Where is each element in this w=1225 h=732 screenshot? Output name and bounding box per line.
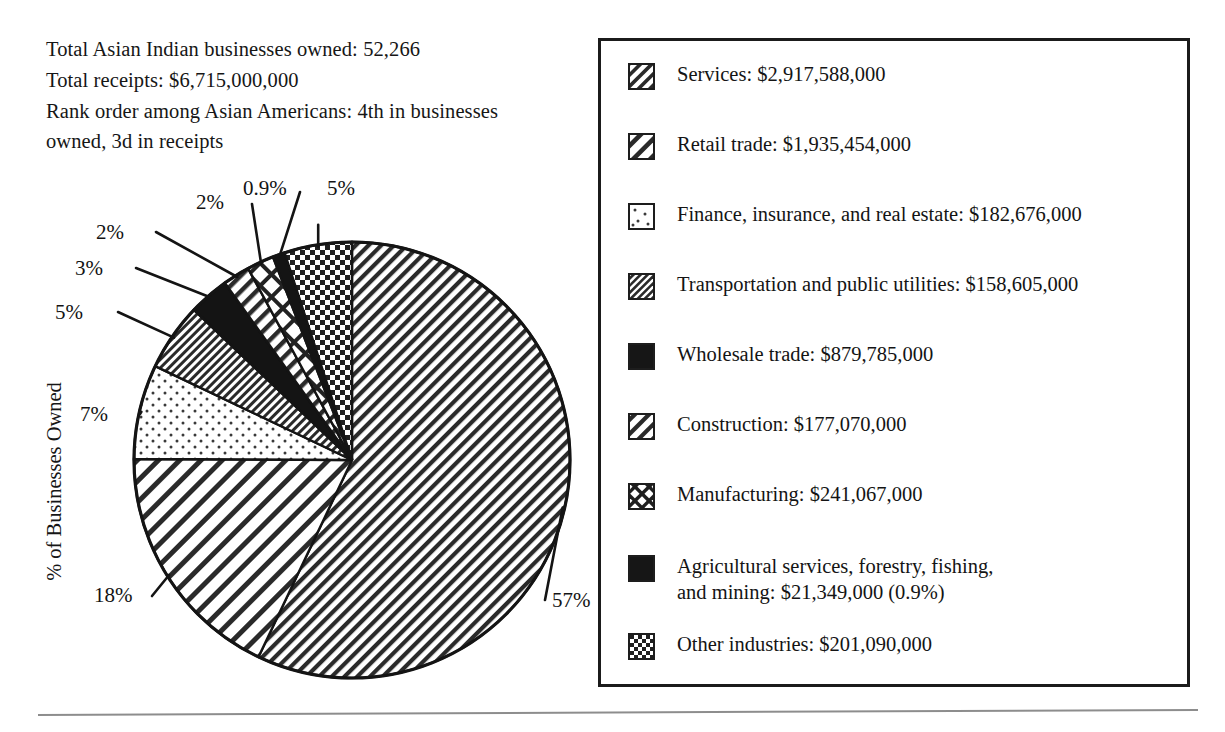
- pie-leader-line: [152, 575, 169, 596]
- pie-percent-label: 57%: [552, 588, 591, 613]
- pie-percent-label: 18%: [94, 583, 133, 608]
- legend-swatch-solid-black-icon: [628, 343, 655, 370]
- pie-leader-line: [156, 232, 237, 277]
- legend-item[interactable]: Other industries: $201,090,000: [628, 631, 932, 660]
- pie-leader-line: [136, 268, 210, 297]
- legend-swatch-diagonal-hatch-medium-icon: [628, 413, 655, 440]
- legend-label: Finance, insurance, and real estate: $18…: [677, 201, 1082, 227]
- pie-percent-label: 7%: [80, 402, 108, 427]
- pie-percent-label: 5%: [327, 176, 355, 201]
- legend-item[interactable]: Agricultural services, forestry, fishing…: [628, 553, 993, 605]
- legend-box: Services: $2,917,588,000Retail trade: $1…: [598, 38, 1190, 687]
- legend-item[interactable]: Wholesale trade: $879,785,000: [628, 341, 933, 370]
- legend-swatch-checkerboard-icon: [628, 633, 655, 660]
- legend-label: Construction: $177,070,000: [677, 411, 906, 437]
- legend-item[interactable]: Construction: $177,070,000: [628, 411, 906, 440]
- legend-item[interactable]: Finance, insurance, and real estate: $18…: [628, 201, 1082, 230]
- legend-swatch-dots-sparse-icon: [628, 203, 655, 230]
- pie-percent-label: 2%: [96, 220, 124, 245]
- legend-label: Services: $2,917,588,000: [677, 61, 885, 87]
- pie-leader-line: [279, 192, 300, 257]
- legend-swatch-diagonal-hatch-wide-icon: [628, 133, 655, 160]
- pie-leader-line: [252, 204, 261, 264]
- legend-label: Retail trade: $1,935,454,000: [677, 131, 911, 157]
- legend-swatch-diagonal-hatch-fine-icon: [628, 63, 655, 90]
- legend-label: Agricultural services, forestry, fishing…: [677, 553, 993, 605]
- legend-item[interactable]: Retail trade: $1,935,454,000: [628, 131, 911, 160]
- pie-percent-label: 0.9%: [243, 176, 287, 201]
- pie-leader-line: [118, 312, 174, 338]
- pie-slice-group: [134, 242, 570, 678]
- legend-label: Wholesale trade: $879,785,000: [677, 341, 933, 367]
- pie-chart-svg: [0, 0, 620, 732]
- figure-root: Total Asian Indian businesses owned: 52,…: [0, 0, 1225, 732]
- legend-swatch-solid-black-icon: [628, 555, 655, 582]
- pie-percent-label: 2%: [196, 190, 224, 215]
- pie-percent-label: 3%: [75, 256, 103, 281]
- legend-swatch-crosshatch-icon: [628, 483, 655, 510]
- legend-label: Transportation and public utilities: $15…: [677, 271, 1078, 297]
- legend-item[interactable]: Services: $2,917,588,000: [628, 61, 885, 90]
- pie-percent-label: 5%: [55, 300, 83, 325]
- legend-label: Manufacturing: $241,067,000: [677, 481, 922, 507]
- pie-leader-line: [140, 412, 141, 414]
- legend-item[interactable]: Manufacturing: $241,067,000: [628, 481, 922, 510]
- legend-item[interactable]: Transportation and public utilities: $15…: [628, 271, 1078, 300]
- legend-label: Other industries: $201,090,000: [677, 631, 932, 657]
- legend-swatch-diagonal-hatch-dense-icon: [628, 273, 655, 300]
- pie-chart: 5%3%2%2%0.9%5%7%18%57%: [0, 0, 620, 732]
